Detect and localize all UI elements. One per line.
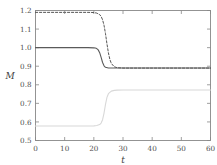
y-tick-label: 1.0: [20, 43, 32, 52]
x-tick-label: 40: [148, 144, 158, 153]
y-tick-label: 1.1: [20, 25, 31, 34]
y-axis-title: M: [4, 71, 15, 81]
chart-canvas: 0102030405060 0.50.60.70.80.91.01.11.2 t…: [0, 0, 217, 165]
y-tick-label: 0.5: [20, 136, 32, 145]
x-tick-label: 50: [177, 144, 187, 153]
figure-container: 0102030405060 0.50.60.70.80.91.01.11.2 t…: [0, 0, 217, 165]
x-tick-label: 20: [89, 144, 99, 153]
y-tick-label: 0.6: [20, 118, 32, 127]
x-axis-ticks: [36, 11, 211, 141]
y-axis-ticks: [36, 11, 211, 141]
x-axis-tick-labels: 0102030405060: [33, 144, 215, 153]
y-tick-label: 1.2: [20, 6, 31, 15]
series-line-solid-middle: [36, 48, 211, 68]
x-tick-label: 10: [60, 144, 70, 153]
x-tick-label: 60: [206, 144, 216, 153]
y-tick-label: 0.8: [20, 80, 32, 89]
y-tick-label: 0.7: [20, 99, 32, 108]
x-tick-label: 0: [33, 144, 38, 153]
series-line-light-lower: [36, 90, 211, 126]
y-axis-tick-labels: 0.50.60.70.80.91.01.11.2: [20, 6, 32, 145]
x-axis-title: t: [121, 155, 125, 165]
data-series-group: [36, 12, 211, 126]
plot-frame: [36, 11, 211, 141]
y-tick-label: 0.9: [20, 62, 32, 71]
x-tick-label: 30: [118, 144, 128, 153]
series-line-dashed-upper: [36, 12, 211, 68]
